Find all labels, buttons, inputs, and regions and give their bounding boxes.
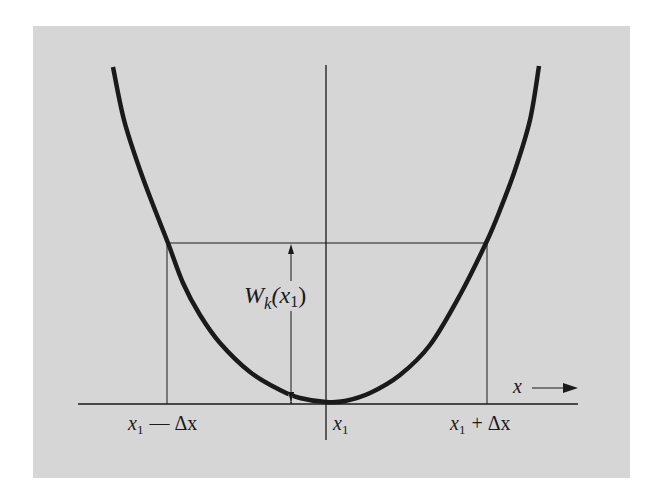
- tick-label-left: x1— Δx: [127, 412, 197, 437]
- svg-text:x: x: [512, 375, 522, 397]
- arrow-right-icon: [563, 383, 578, 393]
- arrow-up-icon: [288, 244, 294, 254]
- height-arrow: [288, 244, 294, 404]
- x-axis-label: x: [512, 375, 578, 397]
- diagram-canvas: x Wk(x1) x1— Δx x1 x1+ Δx: [0, 0, 659, 497]
- function-label: Wk(x1): [244, 282, 306, 313]
- tick-label-center: x1: [332, 412, 348, 437]
- tick-label-right: x1+ Δx: [449, 412, 511, 437]
